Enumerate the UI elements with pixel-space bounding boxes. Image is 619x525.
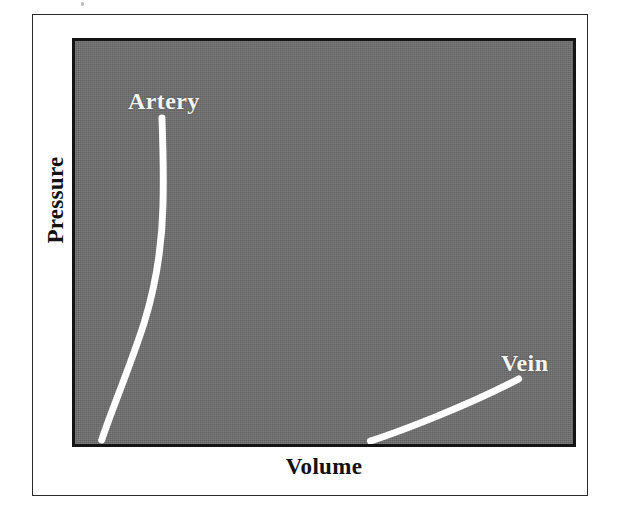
plot-panel: Artery Vein: [72, 38, 576, 447]
x-axis-title: Volume: [72, 454, 576, 480]
y-axis-title: Pressure: [41, 100, 71, 300]
scan-speck-artifact: [81, 2, 84, 6]
artery-curve: [102, 118, 164, 440]
figure-root: Artery Vein Pressure Volume: [0, 0, 619, 525]
series-label-vein: Vein: [501, 351, 548, 375]
series-label-artery: Artery: [128, 89, 200, 113]
vein-line: [370, 379, 518, 441]
